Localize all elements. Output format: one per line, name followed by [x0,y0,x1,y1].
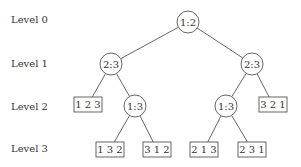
tree-edge [140,116,153,142]
leaf-132: 1 3 2 [96,142,124,157]
tree-edge [114,116,129,142]
level-label-2: Level 2 [11,101,48,112]
leaf-label: 1 2 3 [75,99,100,110]
node-label: 1:2 [180,17,196,28]
node-level1-right: 2:3 [241,53,263,75]
leaf-321: 3 2 1 [259,97,287,112]
leaf-312: 3 1 2 [143,142,171,157]
tree-nodes: 1:2 2:3 2:3 1 2 3 1:3 1:3 3 2 1 1 3 2 [74,11,287,157]
level-labels: Level 0 Level 1 Level 2 Level 3 [11,14,48,154]
tree-edge [197,28,243,58]
tree-edge [116,74,129,97]
decision-tree-diagram: Level 0 Level 1 Level 2 Level 3 1:2 2:3 … [0,0,301,167]
node-label: 2:3 [244,59,260,70]
tree-edge [92,74,105,97]
leaf-label: 3 1 2 [144,144,169,155]
leaf-123: 1 2 3 [74,97,102,112]
leaf-label: 3 2 1 [260,99,285,110]
tree-edge [208,116,221,142]
level-label-1: Level 1 [11,58,48,69]
node-label: 1:3 [218,101,234,112]
node-level2-right: 1:3 [215,95,237,117]
tree-edge [121,27,179,58]
leaf-label: 2 1 3 [191,144,216,155]
leaf-213: 2 1 3 [190,142,218,157]
tree-edges [92,27,269,142]
tree-edge [257,74,269,97]
level-label-3: Level 3 [11,143,48,154]
node-root: 1:2 [177,11,199,33]
node-label: 2:3 [103,59,119,70]
leaf-231: 2 3 1 [238,142,266,157]
leaf-label: 2 3 1 [239,144,264,155]
leaf-label: 1 3 2 [97,144,122,155]
node-level1-left: 2:3 [100,53,122,75]
tree-edge [232,115,248,142]
tree-edge [232,73,246,96]
node-label: 1:3 [127,101,143,112]
level-label-0: Level 0 [11,14,48,25]
node-level2-left: 1:3 [124,95,146,117]
